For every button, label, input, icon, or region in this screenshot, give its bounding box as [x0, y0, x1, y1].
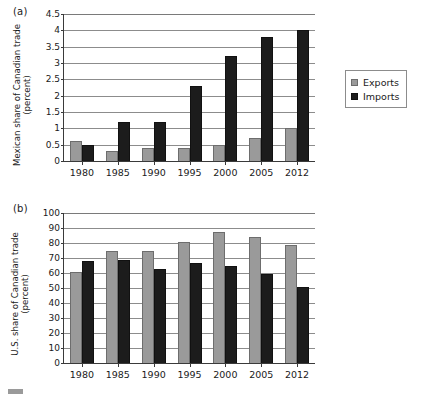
x-tick-label: 1995	[177, 369, 201, 380]
bar-group: 1980	[64, 14, 100, 161]
panel-b-y-axis-title: U.S. share of Canadian trade (percent)	[10, 219, 26, 369]
legend-label-imports: Imports	[363, 91, 399, 102]
x-tick-mark	[82, 363, 83, 367]
y-tick-label: 2.5	[46, 74, 60, 84]
y-tick-label: 100	[43, 208, 60, 218]
y-tick-label: 0	[54, 358, 60, 368]
legend-item-imports: Imports	[351, 89, 399, 103]
bar-imports-2000	[225, 266, 237, 363]
bar-exports-1980	[70, 272, 82, 364]
panel-a-bar-groups: 1980198519901995200020052012	[64, 14, 315, 161]
bar-group: 2012	[279, 14, 315, 161]
y-tick-label: 2	[54, 91, 60, 101]
bar-exports-1995	[178, 148, 190, 161]
y-tick-label: 50	[49, 283, 60, 293]
x-tick-label: 2005	[249, 167, 273, 178]
x-tick-label: 1985	[106, 167, 130, 178]
y-tick-label: 20	[49, 328, 60, 338]
panel-a-y-axis-title: Mexican share of Canadian trade (percent…	[12, 20, 28, 170]
bar-imports-2012	[297, 287, 309, 363]
legend-label-exports: Exports	[363, 77, 399, 88]
x-tick-mark	[190, 161, 191, 165]
bar-exports-2005	[249, 237, 261, 363]
y-tick-label: 90	[49, 223, 60, 233]
y-tick-label: 40	[49, 298, 60, 308]
x-tick-label: 1980	[70, 167, 94, 178]
legend-swatch-imports-icon	[351, 93, 358, 100]
x-tick-mark	[297, 161, 298, 165]
y-tick-label: 4	[54, 25, 60, 35]
bar-imports-1980	[82, 145, 94, 161]
x-tick-label: 1990	[142, 369, 166, 380]
bar-imports-1990	[154, 269, 166, 364]
chart-panel-a: (a) Mexican share of Canadian trade (per…	[0, 0, 434, 197]
bar-imports-1990	[154, 122, 166, 161]
x-tick-label: 1995	[177, 167, 201, 178]
x-tick-label: 2012	[285, 167, 309, 178]
bar-group: 1995	[172, 213, 208, 363]
x-tick-label: 2005	[249, 369, 273, 380]
bar-group: 2000	[207, 213, 243, 363]
bar-imports-1985	[118, 260, 130, 364]
panel-a-plot-area: 00.511.522.533.544.5 1980198519901995200…	[63, 14, 315, 162]
y-tick-label: 3	[54, 58, 60, 68]
bar-exports-1990	[142, 251, 154, 364]
y-tick-mark	[61, 363, 64, 364]
legend-swatch-exports-icon	[351, 79, 358, 86]
y-tick-label: 0.5	[46, 140, 60, 150]
bar-exports-2012	[285, 128, 297, 161]
x-tick-label: 1985	[106, 369, 130, 380]
y-tick-mark	[61, 161, 64, 162]
bar-exports-2005	[249, 138, 261, 161]
bar-exports-1995	[178, 242, 190, 363]
bar-group: 2000	[207, 14, 243, 161]
legend-item-exports: Exports	[351, 75, 399, 89]
bar-group: 1995	[172, 14, 208, 161]
panel-b-bar-groups: 1980198519901995200020052012	[64, 213, 315, 363]
bar-imports-2012	[297, 30, 309, 161]
y-tick-label: 1	[54, 123, 60, 133]
x-tick-mark	[297, 363, 298, 367]
y-tick-label: 1.5	[46, 107, 60, 117]
bar-imports-1985	[118, 122, 130, 161]
footer-mark	[8, 389, 23, 394]
y-tick-label: 70	[49, 253, 60, 263]
panel-a-legend: Exports Imports	[345, 70, 407, 108]
y-tick-label: 0	[54, 156, 60, 166]
panel-b-label: (b)	[13, 203, 28, 214]
x-tick-mark	[154, 363, 155, 367]
bar-exports-1985	[106, 151, 118, 161]
x-tick-mark	[225, 161, 226, 165]
bar-exports-2000	[213, 232, 225, 363]
y-tick-label: 60	[49, 268, 60, 278]
y-tick-label: 10	[49, 343, 60, 353]
y-tick-label: 4.5	[46, 9, 60, 19]
bar-group: 1985	[100, 213, 136, 363]
bar-group: 2005	[243, 14, 279, 161]
bar-imports-1995	[190, 263, 202, 364]
x-tick-mark	[190, 363, 191, 367]
x-tick-mark	[154, 161, 155, 165]
panel-a-label: (a)	[13, 6, 28, 17]
bar-exports-1985	[106, 251, 118, 364]
bar-group: 1990	[136, 14, 172, 161]
chart-panel-b: (b) U.S. share of Canadian trade (percen…	[0, 197, 434, 397]
panel-b-plot-area: 0102030405060708090100 19801985199019952…	[63, 213, 315, 364]
x-tick-mark	[261, 363, 262, 367]
bar-exports-1980	[70, 141, 82, 161]
bar-group: 2005	[243, 213, 279, 363]
bar-imports-2005	[261, 37, 273, 161]
bar-imports-2005	[261, 274, 273, 363]
x-tick-label: 1990	[142, 167, 166, 178]
x-tick-label: 2000	[213, 167, 237, 178]
y-tick-label: 30	[49, 313, 60, 323]
x-tick-mark	[225, 363, 226, 367]
bar-exports-2012	[285, 245, 297, 364]
bar-imports-1995	[190, 86, 202, 161]
bar-group: 1985	[100, 14, 136, 161]
x-tick-label: 2000	[213, 369, 237, 380]
x-tick-mark	[118, 161, 119, 165]
bar-exports-2000	[213, 145, 225, 161]
x-tick-label: 2012	[285, 369, 309, 380]
bar-group: 1980	[64, 213, 100, 363]
